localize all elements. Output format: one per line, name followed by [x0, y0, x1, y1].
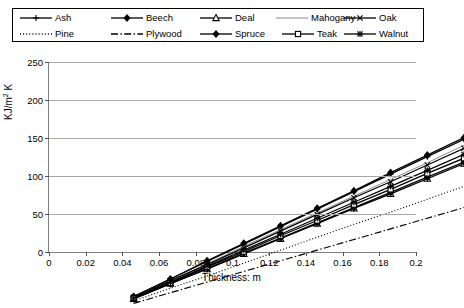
- y-axis-tick-label: 100: [27, 171, 43, 182]
- legend-swatch-spruce: [199, 27, 233, 41]
- gridline-y: [49, 214, 416, 215]
- legend-item-ash[interactable]: Ash: [19, 9, 71, 26]
- series-pine: [134, 186, 464, 301]
- legend-swatch-oak: [343, 11, 377, 25]
- data-point-marker-star: [314, 215, 320, 221]
- x-axis-tick: [306, 252, 307, 256]
- data-point-marker-plus: [33, 14, 39, 20]
- legend-item-plywood[interactable]: Plywood: [110, 25, 182, 42]
- x-axis-title: Thickness: m: [48, 272, 415, 283]
- data-point-marker-star: [241, 247, 247, 253]
- y-axis-title: KJ/m2 K: [2, 84, 14, 120]
- legend-label: Plywood: [146, 29, 182, 39]
- gridline-y: [49, 100, 416, 101]
- plot-area: 05010015020025000.020.040.060.080.10.120…: [48, 62, 416, 253]
- y-axis-tick: [45, 138, 49, 139]
- series-line: [134, 186, 464, 301]
- y-axis-tick-label: 50: [32, 209, 43, 220]
- x-axis-tick: [196, 252, 197, 256]
- legend-swatch-walnut: [343, 27, 377, 41]
- legend-item-pine[interactable]: Pine: [19, 25, 74, 42]
- data-point-marker-square: [295, 31, 300, 36]
- y-axis-title-exponent: 2: [2, 93, 9, 97]
- x-axis-tick: [233, 252, 234, 256]
- x-axis-tick: [122, 252, 123, 256]
- x-axis-tick-label: 0.1: [226, 257, 239, 268]
- y-axis-title-tail: K: [3, 84, 14, 93]
- data-point-marker-star: [424, 167, 430, 173]
- x-axis-tick: [49, 252, 50, 256]
- y-axis-tick: [45, 176, 49, 177]
- legend-swatch-plywood: [110, 27, 144, 41]
- x-axis-tick: [86, 252, 87, 256]
- y-axis-title-base: KJ/m: [3, 97, 14, 120]
- y-axis-tick-label: 0: [38, 247, 43, 258]
- legend-item-teak[interactable]: Teak: [281, 25, 337, 42]
- legend-row-2: PinePlywoodSpruceTeakWalnut: [13, 25, 423, 42]
- x-axis-tick-label: 0.18: [370, 257, 389, 268]
- x-axis-tick: [379, 252, 380, 256]
- x-axis-tick: [416, 252, 417, 256]
- x-axis-tick-label: 0.02: [76, 257, 95, 268]
- legend-swatch-pine: [19, 27, 53, 41]
- x-axis-tick: [343, 252, 344, 256]
- y-axis-tick-label: 200: [27, 95, 43, 106]
- legend-item-oak[interactable]: Oak: [343, 9, 396, 26]
- x-axis-tick-label: 0.14: [297, 257, 316, 268]
- legend-swatch-mahogany: [275, 11, 309, 25]
- y-axis-tick: [45, 62, 49, 63]
- data-point-marker-star: [357, 30, 363, 36]
- x-axis-tick: [159, 252, 160, 256]
- legend-swatch-ash: [19, 11, 53, 25]
- series-plywood: [134, 208, 464, 304]
- data-point-marker-star: [277, 231, 283, 237]
- legend-item-beech[interactable]: Beech: [110, 9, 173, 26]
- x-axis-tick-label: 0.2: [409, 257, 422, 268]
- x-axis-tick-label: 0.06: [150, 257, 169, 268]
- y-axis-tick: [45, 214, 49, 215]
- legend-swatch-deal: [199, 11, 233, 25]
- data-point-marker-diamond: [124, 14, 130, 20]
- legend-item-walnut[interactable]: Walnut: [343, 25, 408, 42]
- data-point-marker-star: [387, 183, 393, 189]
- gridline-y: [49, 176, 416, 177]
- x-axis-tick: [269, 252, 270, 256]
- legend-label: Pine: [55, 29, 74, 39]
- y-axis-tick-label: 150: [27, 133, 43, 144]
- legend-item-spruce[interactable]: Spruce: [199, 25, 265, 42]
- legend-label: Teak: [317, 29, 337, 39]
- legend-label: Deal: [235, 13, 255, 23]
- legend-item-deal[interactable]: Deal: [199, 9, 255, 26]
- legend-swatch-teak: [281, 27, 315, 41]
- x-axis-tick-label: 0: [46, 257, 51, 268]
- data-point-marker-diamond: [213, 30, 219, 36]
- y-axis-tick: [45, 100, 49, 101]
- legend-label: Spruce: [235, 29, 265, 39]
- legend-label: Walnut: [379, 29, 408, 39]
- x-axis-tick-label: 0.12: [260, 257, 279, 268]
- data-point-marker-star: [351, 199, 357, 205]
- series-line: [134, 208, 464, 304]
- gridline-y: [49, 62, 416, 63]
- legend-label: Beech: [146, 13, 173, 23]
- x-axis-tick-label: 0.08: [187, 257, 206, 268]
- legend-row-1: AshBeechDealMahoganyOak: [13, 9, 423, 26]
- legend-label: Ash: [55, 13, 71, 23]
- legend-label: Oak: [379, 13, 396, 23]
- x-axis-tick-label: 0.04: [113, 257, 132, 268]
- gridline-y: [49, 138, 416, 139]
- data-point-marker-star: [131, 295, 137, 301]
- y-axis-tick-label: 250: [27, 57, 43, 68]
- x-axis-tick-label: 0.16: [333, 257, 352, 268]
- legend-swatch-beech: [110, 11, 144, 25]
- chart-legend: AshBeechDealMahoganyOak PinePlywoodSpruc…: [12, 8, 424, 42]
